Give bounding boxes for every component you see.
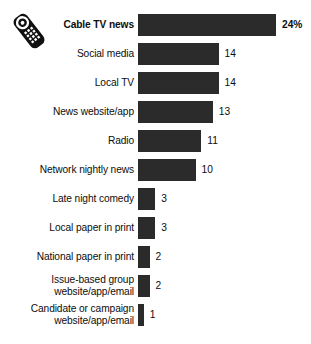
bar: [138, 130, 201, 152]
bar-row: National paper in print2: [0, 246, 311, 268]
bar-value-label: 1: [150, 309, 156, 321]
bar-track: 1: [138, 304, 311, 326]
bar-value-label: 11: [207, 135, 218, 147]
bar-value-label: 2: [156, 251, 162, 263]
bar-label-holder: Candidate or campaign website/app/email: [0, 304, 134, 326]
bar-category-label: Local paper in print: [0, 222, 134, 234]
bar-category-label: Issue-based group website/app/email: [0, 274, 134, 297]
bar-track: 2: [138, 275, 311, 297]
bar-value-label: 3: [161, 222, 167, 234]
bar-track: 11: [138, 130, 311, 152]
bar-value-label: 14: [225, 48, 236, 60]
bar-row: Issue-based group website/app/email2: [0, 275, 311, 297]
bar: [138, 159, 196, 181]
bar-track: 24%: [138, 14, 311, 36]
bar-track: 3: [138, 188, 311, 210]
bar-label-holder: Late night comedy: [0, 188, 134, 210]
bar-value-label: 24%: [282, 19, 302, 31]
bar-category-label: Cable TV news: [0, 19, 134, 31]
bar-category-label: Network nightly news: [0, 164, 134, 176]
bar-row: Candidate or campaign website/app/email1: [0, 304, 311, 326]
bar-category-label: National paper in print: [0, 251, 134, 263]
bar-label-holder: Local paper in print: [0, 217, 134, 239]
bar: [138, 43, 219, 65]
bar-track: 10: [138, 159, 311, 181]
bar: [138, 14, 276, 36]
bar-value-label: 2: [156, 280, 162, 292]
bar-label-holder: Social media: [0, 43, 134, 65]
bar-row: Local TV14: [0, 72, 311, 94]
bar-track: 14: [138, 43, 311, 65]
bar-row: Late night comedy3: [0, 188, 311, 210]
bar-value-label: 10: [202, 164, 213, 176]
bar: [138, 101, 213, 123]
bar-track: 14: [138, 72, 311, 94]
bar-value-label: 3: [161, 193, 167, 205]
bar: [138, 188, 155, 210]
bar-label-holder: Issue-based group website/app/email: [0, 275, 134, 297]
bar-row: Social media14: [0, 43, 311, 65]
bar-track: 2: [138, 246, 311, 268]
bar-label-holder: Local TV: [0, 72, 134, 94]
bar-value-label: 14: [225, 77, 236, 89]
bar: [138, 72, 219, 94]
bar-label-holder: Cable TV news: [0, 14, 134, 36]
bar-category-label: Social media: [0, 48, 134, 60]
bar-label-holder: Network nightly news: [0, 159, 134, 181]
bar-category-label: Local TV: [0, 77, 134, 89]
bar-category-label: News website/app: [0, 106, 134, 118]
bar-label-holder: National paper in print: [0, 246, 134, 268]
bar-category-label: Late night comedy: [0, 193, 134, 205]
bar-value-label: 13: [219, 106, 230, 118]
bar-row: Radio11: [0, 130, 311, 152]
bar-row: News website/app13: [0, 101, 311, 123]
bar-track: 13: [138, 101, 311, 123]
bar-row: Local paper in print3: [0, 217, 311, 239]
bar: [138, 246, 150, 268]
bar-track: 3: [138, 217, 311, 239]
bar-label-holder: News website/app: [0, 101, 134, 123]
bar-row: Cable TV news24%: [0, 14, 311, 36]
bar: [138, 275, 150, 297]
horizontal-bar-chart: Cable TV news24%Social media14Local TV14…: [0, 0, 311, 344]
bar-category-label: Candidate or campaign website/app/email: [0, 303, 134, 326]
bar: [138, 304, 144, 326]
bar: [138, 217, 155, 239]
bar-row: Network nightly news10: [0, 159, 311, 181]
bar-label-holder: Radio: [0, 130, 134, 152]
bar-category-label: Radio: [0, 135, 134, 147]
